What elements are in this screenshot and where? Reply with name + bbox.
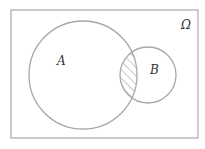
venn-diagram: Ω A B [0, 0, 205, 149]
set-b-label: B [149, 63, 159, 77]
universe-rectangle [11, 10, 198, 138]
universe-label: Ω [180, 18, 191, 32]
set-a-label: A [56, 54, 66, 68]
